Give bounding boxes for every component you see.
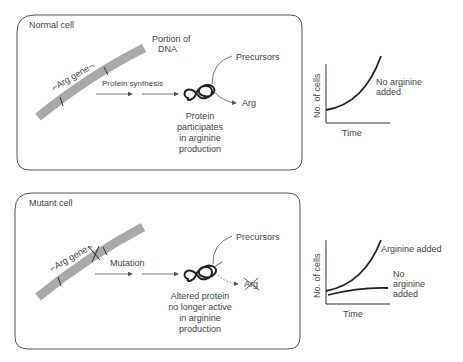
graph1-curve-label-2: added <box>376 87 401 97</box>
protein-caption-2: participates <box>177 122 224 132</box>
precursors-arc-mutant <box>213 236 232 264</box>
altered-caption-1: Altered protein <box>171 291 230 301</box>
graph1-curve <box>326 56 381 110</box>
altered-caption-3: in arginine <box>179 313 221 323</box>
mutant-cell-panel: Mutant cell ⌐Arg gene¬ Mutation Precurso… <box>15 193 300 349</box>
graph2-lower-label-2: arginine <box>393 279 425 289</box>
growth-graph-normal: No. of cells Time No arginine added <box>312 56 422 138</box>
blocked-site-mark <box>214 262 222 267</box>
diagram-canvas: Normal cell ⌐Arg gene¬ Portion of DNA Pr… <box>0 0 463 362</box>
altered-caption-2: no longer active <box>168 302 232 312</box>
normal-cell-title: Normal cell <box>29 20 74 30</box>
mutant-cell-title: Mutant cell <box>29 198 73 208</box>
precursors-label: Precursors <box>236 52 280 62</box>
graph2-upper-label: Arginine added <box>381 244 442 254</box>
altered-protein-knot-icon <box>185 262 222 281</box>
protein-caption-3: in arginine <box>179 133 221 143</box>
blocked-arg-arrow <box>218 275 238 284</box>
protein-caption-1: Protein <box>186 111 215 121</box>
graph2-lower-label-3: added <box>393 289 418 299</box>
altered-caption-4: production <box>179 324 221 334</box>
graph2-ylabel: No. of cells <box>312 253 322 298</box>
graph1-xlabel: Time <box>342 128 362 138</box>
graph2-curve-arginine <box>326 240 381 291</box>
graph2-xlabel: Time <box>343 309 363 319</box>
graph2-lower-label-1: No <box>393 269 405 279</box>
protein-synthesis-label: Protein synthesis <box>102 79 163 88</box>
arg-product-label: Arg <box>242 98 256 108</box>
graph1-curve-label-1: No arginine <box>376 77 422 87</box>
normal-cell-panel: Normal cell ⌐Arg gene¬ Portion of DNA Pr… <box>17 15 302 170</box>
precursors-label-mutant: Precursors <box>236 232 280 242</box>
mutation-label: Mutation <box>110 258 145 268</box>
protein-caption-4: production <box>179 144 221 154</box>
dna-label-line2: DNA <box>158 44 177 54</box>
protein-knot-icon <box>185 85 215 100</box>
arg-product-arrow <box>214 92 236 103</box>
dna-label-line1: Portion of <box>152 34 191 44</box>
growth-graph-mutant: No. of cells Time Arginine added No argi… <box>312 240 442 319</box>
graph1-ylabel: No. of cells <box>312 73 322 118</box>
precursors-arc <box>212 56 232 84</box>
mutant-cell-border <box>15 193 300 349</box>
